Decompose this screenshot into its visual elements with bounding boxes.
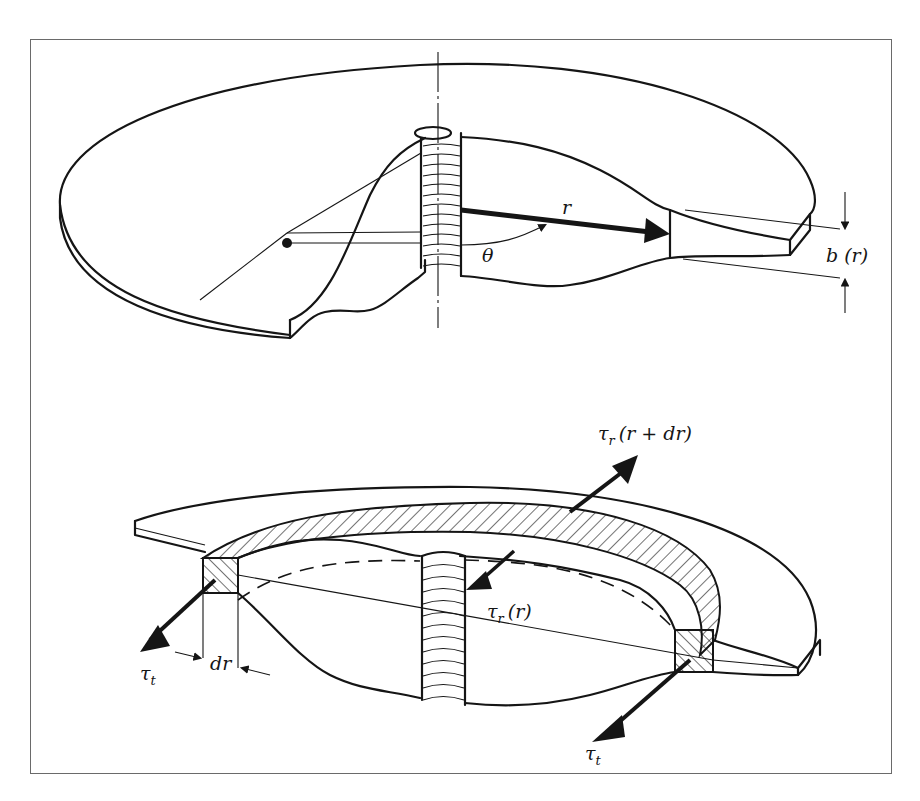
- lower-ring-diagram: τt τt τr(r + dr) τr(r) dr: [135, 422, 820, 768]
- tangential-stress-arrow-left: [140, 625, 170, 652]
- tangential-stress-arrow-right: [592, 715, 625, 742]
- dashed-path: [238, 560, 675, 630]
- disk-stress-figure: r θ b (r): [0, 0, 920, 801]
- dr-arrow-right: [242, 668, 270, 675]
- lower-hub-column: [422, 552, 465, 705]
- tangential-stress-right-label: τt: [585, 742, 602, 768]
- radial-stress-outer-label: τr(r + dr): [598, 422, 692, 448]
- radius-label: r: [562, 196, 573, 218]
- disk-outer-rim: [60, 64, 815, 335]
- radial-stress-inner-label: τr(r): [487, 600, 532, 626]
- ring-width-label: dr: [210, 652, 233, 674]
- radius-arrow: [644, 218, 670, 243]
- theta-label: θ: [482, 244, 494, 266]
- cut-profile-left: [290, 138, 425, 320]
- thickness-label: b (r): [826, 244, 868, 266]
- theta-arc-arrow: [461, 225, 545, 245]
- radial-stress-outer-arrow: [612, 455, 638, 484]
- tangential-stress-left-label: τt: [140, 662, 157, 688]
- upper-disk-diagram: r θ b (r): [60, 52, 868, 338]
- cut-profile-right: [461, 137, 790, 240]
- dr-arrow-left: [175, 652, 200, 658]
